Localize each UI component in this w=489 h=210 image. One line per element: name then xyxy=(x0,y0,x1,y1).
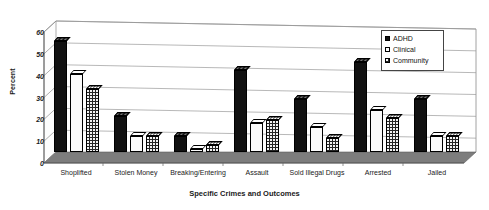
x-label-shoplifted: Shoplifted xyxy=(60,169,91,176)
x-label-jailed: Jailed xyxy=(428,169,446,176)
bar-adhd-stolen-money xyxy=(114,116,127,152)
bar-adhd-sold-illegal-drugs xyxy=(294,99,307,152)
y-tick-40: 40 xyxy=(22,72,44,79)
bar-adhd-jailed xyxy=(414,99,427,152)
bar-adhd-assault xyxy=(234,70,247,152)
legend-label-clinical: Clinical xyxy=(393,44,416,55)
bar-community-stolen-money xyxy=(146,136,159,152)
bar-clinical-arrested xyxy=(370,110,383,153)
bar-chart: Percent 0 10 20 30 40 50 60 Shoplifted S… xyxy=(0,0,489,210)
bar-community-jailed xyxy=(446,136,459,152)
bar-community-arrested xyxy=(386,118,399,152)
bar-community-shoplifted xyxy=(86,89,99,152)
bar-clinical-jailed xyxy=(430,136,443,152)
legend-item-clinical: Clinical xyxy=(385,44,439,55)
legend-swatch-community-icon xyxy=(385,58,390,63)
bar-clinical-assault xyxy=(250,123,263,152)
bar-clinical-breaking-entering xyxy=(190,149,203,152)
x-label-stolen-money: Stolen Money xyxy=(115,169,158,176)
x-axis-category-labels: Shoplifted Stolen Money Breaking/Enterin… xyxy=(0,169,489,185)
y-tick-50: 50 xyxy=(22,50,44,57)
bar-adhd-breaking-entering xyxy=(174,136,187,152)
legend-swatch-adhd-icon xyxy=(385,36,390,41)
y-tick-60: 60 xyxy=(22,29,44,36)
y-axis-title: Percent xyxy=(9,52,16,112)
bar-adhd-arrested xyxy=(354,62,367,153)
legend-label-adhd: ADHD xyxy=(393,33,413,44)
y-tick-0: 0 xyxy=(22,160,44,167)
legend-swatch-clinical-icon xyxy=(385,47,390,52)
bar-community-breaking-entering xyxy=(206,145,219,153)
bar-clinical-sold-illegal-drugs xyxy=(310,127,323,152)
y-tick-10: 10 xyxy=(22,138,44,145)
bar-clinical-shoplifted xyxy=(70,74,83,152)
x-label-breaking-entering: Breaking/Entering xyxy=(170,169,226,176)
x-label-sold-illegal-drugs: Sold Illegal Drugs xyxy=(290,169,345,176)
bar-clinical-stolen-money xyxy=(130,136,143,152)
legend-label-community: Community xyxy=(393,55,428,66)
y-tick-20: 20 xyxy=(22,116,44,123)
legend-item-community: Community xyxy=(385,55,439,66)
y-tick-30: 30 xyxy=(22,94,44,101)
x-label-assault: Assault xyxy=(246,169,269,176)
chart-legend: ADHD Clinical Community xyxy=(381,30,444,71)
bar-adhd-shoplifted xyxy=(54,41,67,152)
legend-item-adhd: ADHD xyxy=(385,33,439,44)
bar-community-sold-illegal-drugs xyxy=(326,138,339,152)
bar-community-assault xyxy=(266,120,279,152)
x-label-arrested: Arrested xyxy=(365,169,391,176)
x-axis-title: Specific Crimes and Outcomes xyxy=(0,189,489,198)
